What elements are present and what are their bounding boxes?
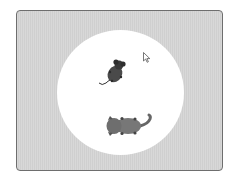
mouse-sprite[interactable] bbox=[96, 55, 130, 89]
arrow-cursor-icon bbox=[143, 52, 151, 63]
game-stage[interactable] bbox=[16, 10, 223, 171]
cat-sprite[interactable] bbox=[104, 107, 158, 141]
